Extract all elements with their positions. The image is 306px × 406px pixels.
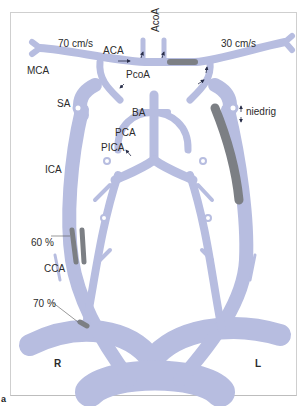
acoa-label: AcoA <box>151 8 161 32</box>
niedrig-label: niedrig <box>246 107 276 117</box>
mca-label: MCA <box>27 66 49 76</box>
velocity-left-label: 30 cm/s <box>221 39 256 49</box>
right-vertebral <box>85 175 118 330</box>
sa-label: SA <box>57 99 70 109</box>
aortic-arch <box>30 328 280 360</box>
side-right-label: R <box>54 359 61 369</box>
pica-label: PICA <box>101 143 124 153</box>
side-left-label: L <box>255 359 261 369</box>
stenosis-60-label: 60 % <box>31 238 54 248</box>
aca-label: ACA <box>103 46 124 56</box>
cerebral-vessel-diagram <box>0 0 306 406</box>
ba-label: BA <box>132 108 145 118</box>
stenosis-60b <box>82 230 84 262</box>
pca-label: PCA <box>115 128 136 138</box>
velocity-right-label: 70 cm/s <box>58 39 93 49</box>
ica-label: ICA <box>45 165 62 175</box>
cca-label: CCA <box>44 264 65 274</box>
stenosis-70-label: 70 % <box>33 299 56 309</box>
pcoa-label: PcoA <box>126 70 150 80</box>
panel-label: a <box>1 394 6 404</box>
stenosis-70 <box>80 322 87 326</box>
